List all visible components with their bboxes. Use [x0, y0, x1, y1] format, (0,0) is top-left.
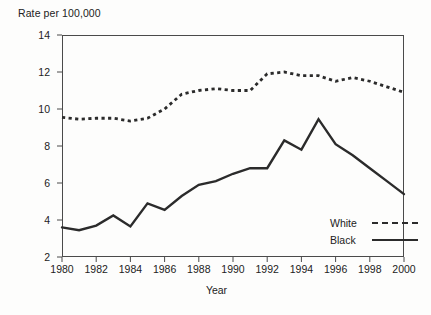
legend-item-white: White	[330, 214, 418, 231]
legend-label-black: Black	[330, 234, 366, 246]
legend-item-black: Black	[330, 231, 418, 248]
legend-label-white: White	[330, 217, 366, 229]
y-tick-label: 4	[10, 214, 50, 226]
legend-swatch-black-solid	[372, 239, 418, 241]
data-series-group	[62, 72, 404, 230]
y-tick-label: 6	[10, 177, 50, 189]
series-line-white	[62, 72, 404, 121]
y-tick-label: 2	[10, 251, 50, 263]
chart-legend: White Black	[330, 214, 418, 248]
x-axis-title-text: Year	[206, 284, 227, 296]
y-tick-label: 14	[10, 29, 50, 41]
y-tick-label: 8	[10, 140, 50, 152]
legend-swatch-white-dashed	[372, 222, 418, 224]
y-tick-label: 12	[10, 66, 50, 78]
y-tick-label: 10	[10, 103, 50, 115]
x-tick-label: 2000	[384, 263, 424, 275]
x-axis-title: Year	[0, 284, 431, 296]
chart-figure: Rate per 100,000 2468101214 198019821984…	[0, 0, 431, 315]
